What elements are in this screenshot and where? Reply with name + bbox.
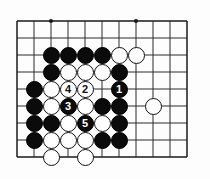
stone-white <box>60 132 77 149</box>
stone-white <box>43 98 60 115</box>
numbered-stone-white: 4 <box>60 81 77 98</box>
numbered-stone-white: 2 <box>77 81 94 98</box>
stone-black <box>43 64 60 81</box>
stone-black <box>111 98 128 115</box>
stone-black <box>111 132 128 149</box>
stone-white <box>77 149 94 166</box>
move-number-label: 3 <box>65 101 71 112</box>
move-number-label: 5 <box>82 118 88 129</box>
stone-white <box>60 64 77 81</box>
stone-black <box>26 115 43 132</box>
stone-black <box>43 47 60 64</box>
stone-black <box>26 132 43 149</box>
move-number-label: 2 <box>82 84 88 95</box>
numbered-stone-black: 3 <box>60 98 77 115</box>
stone-white <box>145 98 162 115</box>
numbered-stone-black: 1 <box>111 81 128 98</box>
stone-black <box>26 81 43 98</box>
stone-white <box>94 115 111 132</box>
stone-white <box>94 64 111 81</box>
stone-black <box>94 132 111 149</box>
stone-white <box>60 115 77 132</box>
stone-black <box>111 115 128 132</box>
stone-white <box>43 132 60 149</box>
stone-white <box>77 64 94 81</box>
go-board-diagram: 42135 <box>0 0 210 179</box>
stone-black <box>26 98 43 115</box>
stone-black <box>43 115 60 132</box>
stone-white <box>77 132 94 149</box>
stone-white <box>111 47 128 64</box>
stone-white <box>77 98 94 115</box>
stone-black <box>60 47 77 64</box>
stone-layer: 42135 <box>0 0 210 179</box>
move-number-label: 1 <box>116 84 122 95</box>
stone-black <box>94 47 111 64</box>
stone-white <box>43 81 60 98</box>
stone-black <box>77 47 94 64</box>
stone-black <box>111 64 128 81</box>
stone-black <box>94 98 111 115</box>
move-number-label: 4 <box>65 84 71 95</box>
stone-white <box>128 47 145 64</box>
stone-white <box>43 149 60 166</box>
numbered-stone-black: 5 <box>77 115 94 132</box>
